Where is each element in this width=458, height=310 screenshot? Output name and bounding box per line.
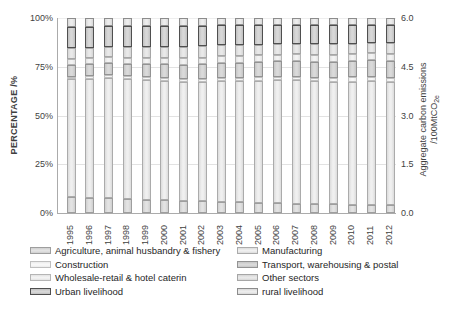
bar-2002	[198, 18, 207, 213]
segment-1997	[104, 18, 113, 26]
legend-swatch	[237, 288, 258, 295]
segment-1996	[85, 64, 94, 76]
segment-1995	[67, 79, 76, 197]
segment-2004	[235, 81, 244, 202]
bar-2005	[254, 18, 263, 213]
segment-2008	[310, 204, 319, 213]
segment-2002	[198, 26, 207, 46]
segment-1998	[123, 79, 132, 199]
legend-swatch	[237, 274, 258, 281]
segment-2007	[292, 54, 301, 61]
segment-1998	[123, 26, 132, 47]
segment-1999	[142, 64, 151, 77]
legend-label: Transport, warehousing & postal	[262, 259, 398, 270]
x-tick-1998: 1998	[121, 217, 131, 245]
segment-2004	[235, 56, 244, 63]
segment-2001	[179, 47, 188, 58]
segment-2009	[329, 44, 338, 55]
segment-1998	[123, 64, 132, 76]
segment-1999	[142, 47, 151, 58]
x-tick-2005: 2005	[253, 217, 263, 245]
segment-2012	[386, 54, 395, 61]
segment-1996	[85, 18, 94, 27]
legend-item: Transport, warehousing & postal	[237, 258, 398, 272]
segment-1995	[67, 197, 76, 213]
segment-2005	[254, 18, 263, 25]
segment-1995	[67, 48, 76, 59]
segment-2003	[217, 18, 226, 25]
segment-2005	[254, 62, 263, 77]
segment-2000	[160, 18, 169, 26]
bar-1999	[142, 18, 151, 213]
legend-item: Manufacturing	[237, 244, 398, 258]
segment-2008	[310, 18, 319, 25]
segment-2011	[367, 18, 376, 25]
segment-2008	[310, 25, 319, 44]
segment-2005	[254, 25, 263, 44]
segment-2000	[160, 81, 169, 200]
bar-1995	[67, 18, 76, 213]
segment-2001	[179, 18, 188, 26]
segment-2001	[179, 65, 188, 79]
segment-1999	[142, 26, 151, 47]
legend-label: Other sectors	[262, 272, 319, 283]
segment-2001	[179, 82, 188, 201]
segment-2003	[217, 45, 226, 56]
segment-1999	[142, 18, 151, 26]
bar-2009	[329, 18, 338, 213]
bar-2012	[386, 18, 395, 213]
x-tick-2009: 2009	[328, 217, 338, 245]
segment-2009	[329, 62, 338, 78]
x-tick-1999: 1999	[140, 217, 150, 245]
segment-2004	[235, 63, 244, 78]
segment-2009	[329, 25, 338, 44]
bar-1997	[104, 18, 113, 213]
x-tick-2003: 2003	[215, 217, 225, 245]
x-tick-2001: 2001	[178, 217, 188, 245]
segment-1996	[85, 48, 94, 59]
legend-label: Construction	[55, 259, 108, 270]
segment-2003	[217, 63, 226, 78]
segment-2010	[348, 44, 357, 55]
segment-2000	[160, 26, 169, 47]
x-tick-2006: 2006	[271, 217, 281, 245]
bar-2008	[310, 18, 319, 213]
segment-2007	[292, 25, 301, 44]
right-tick: 0.0	[401, 208, 414, 219]
right-tick: 4.5	[401, 62, 414, 73]
segment-2002	[198, 201, 207, 213]
plot-area	[57, 18, 396, 214]
legend-label: Agriculture, animal husbandry & fishery	[55, 245, 220, 256]
segment-2010	[348, 25, 357, 44]
bar-2010	[348, 18, 357, 213]
segment-2006	[273, 55, 282, 62]
segment-2007	[292, 80, 301, 204]
legend-column: Agriculture, animal husbandry & fisheryC…	[30, 244, 220, 298]
x-tick-1997: 1997	[103, 217, 113, 245]
legend-swatch	[30, 247, 51, 254]
segment-2000	[160, 64, 169, 78]
x-tick-2002: 2002	[196, 217, 206, 245]
legend-item: Agriculture, animal husbandry & fishery	[30, 244, 220, 258]
segment-1996	[85, 198, 94, 213]
right-tick: 6.0	[401, 13, 414, 24]
segment-2004	[235, 25, 244, 45]
segment-2006	[273, 80, 282, 203]
left-tick: 100%	[30, 13, 53, 24]
segment-2006	[273, 61, 282, 76]
segment-2005	[254, 55, 263, 62]
segment-2007	[292, 18, 301, 25]
legend-column: ManufacturingTransport, warehousing & po…	[237, 244, 398, 298]
segment-1997	[104, 198, 113, 213]
segment-2012	[386, 82, 395, 205]
segment-2010	[348, 82, 357, 205]
segment-1996	[85, 79, 94, 198]
segment-2009	[329, 55, 338, 62]
segment-2009	[329, 82, 338, 205]
x-tick-2007: 2007	[290, 217, 300, 245]
bar-2006	[273, 18, 282, 213]
left-axis-title: PERCENTAGE /%	[9, 18, 21, 213]
x-tick-2011: 2011	[365, 217, 375, 245]
segment-2012	[386, 43, 395, 54]
segment-2003	[217, 81, 226, 202]
